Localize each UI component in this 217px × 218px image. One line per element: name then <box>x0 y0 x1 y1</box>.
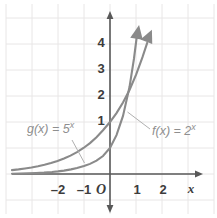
exponential-functions-graph: –2 –1 1 2 O x 1 2 3 4 g(x) = 5x f(x) = 2… <box>0 0 217 218</box>
x-tick-label--2: –2 <box>51 182 65 197</box>
x-tick-label--1: –1 <box>77 182 91 197</box>
y-tick-label-1: 1 <box>97 113 104 128</box>
x-tick-label-2: 2 <box>159 182 166 197</box>
y-tick-label-4: 4 <box>97 35 105 50</box>
y-tick-label-3: 3 <box>97 61 104 76</box>
series-label-f-text: f(x) = 2 <box>152 124 191 138</box>
x-axis-label: x <box>187 181 195 196</box>
series-label-g: g(x) = 5x <box>27 120 75 136</box>
chart-background <box>0 0 217 218</box>
origin-label: O <box>96 182 106 197</box>
series-label-f: f(x) = 2x <box>152 122 196 138</box>
series-label-g-text: g(x) = 5 <box>27 122 70 136</box>
y-tick-label-2: 2 <box>97 87 104 102</box>
series-label-g-exponent: x <box>69 120 75 130</box>
series-label-f-exponent: x <box>190 122 196 132</box>
x-tick-label-1: 1 <box>133 182 140 197</box>
